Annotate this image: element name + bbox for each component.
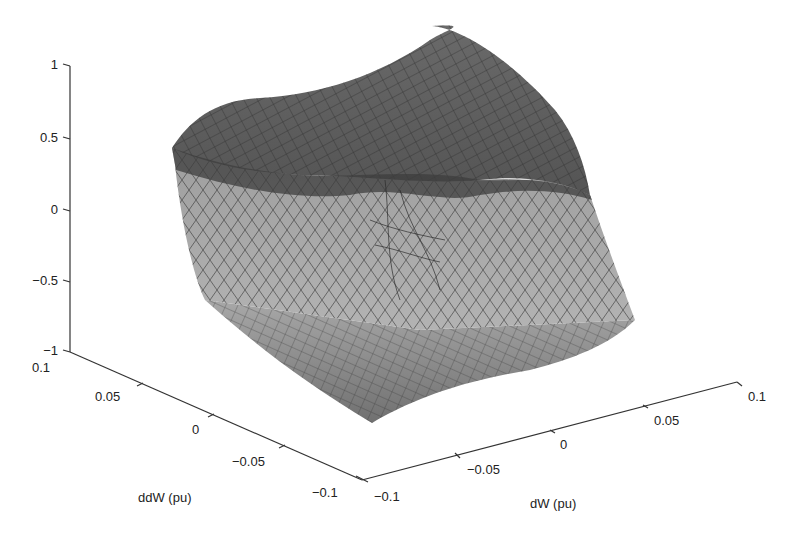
x-axis-title: dW (pu) (530, 496, 576, 511)
svg-text:0.05: 0.05 (95, 389, 120, 404)
svg-text:−0.5: −0.5 (32, 273, 58, 288)
svg-text:1: 1 (51, 57, 58, 72)
svg-text:−1: −1 (43, 343, 58, 358)
svg-text:0.1: 0.1 (32, 360, 50, 375)
svg-text:0: 0 (560, 437, 567, 452)
z-axis (63, 64, 70, 352)
svg-text:0.05: 0.05 (654, 413, 679, 428)
surface-plot: 1 0.5 0 −0.5 −1 0.1 0.05 0 −0.05 −0.1 −0… (0, 0, 796, 533)
svg-text:−0.1: −0.1 (312, 485, 338, 500)
svg-text:0.1: 0.1 (748, 389, 766, 404)
y-axis-title: ddW (pu) (138, 490, 191, 505)
svg-text:0.5: 0.5 (40, 130, 58, 145)
svg-text:−0.05: −0.05 (467, 462, 500, 477)
z-tick-labels: 1 0.5 0 −0.5 −1 (32, 57, 58, 358)
y-tick-labels: 0.1 0.05 0 −0.05 −0.1 (32, 360, 338, 500)
svg-text:−0.05: −0.05 (232, 454, 265, 469)
svg-text:−0.1: −0.1 (374, 489, 400, 504)
svg-text:0: 0 (51, 202, 58, 217)
x-tick-labels: −0.1 −0.05 0 0.05 0.1 (374, 389, 766, 504)
svg-text:0: 0 (192, 422, 199, 437)
